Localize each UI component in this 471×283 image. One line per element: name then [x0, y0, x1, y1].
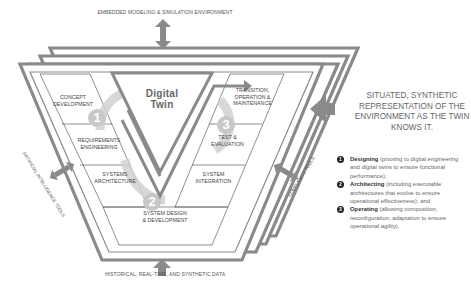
phase-line: Evaluation	[200, 141, 255, 148]
legend-title: Operating	[350, 206, 378, 212]
phase-line: Operation &	[225, 94, 280, 101]
twin-line1: Digital	[132, 88, 192, 99]
top-label: Embedded Modeling & Simulation Environme…	[80, 10, 250, 16]
twin-line2: Twin	[132, 99, 192, 110]
phase-line: Systems	[90, 171, 140, 178]
phase-line: Architecture	[90, 178, 140, 185]
phase-line: & Development	[135, 217, 195, 224]
situated-representation-text: Situated, synthetic representation of th…	[352, 91, 471, 133]
phase-line: Maintenance	[225, 100, 280, 107]
phase-requirements-engineering: Requirements Engineering	[74, 137, 124, 150]
phase-line: Integration	[186, 178, 241, 185]
phase-concept-development: Concept Development	[48, 94, 98, 107]
phase-system-integration: System Integration	[186, 171, 241, 184]
bottom-label: Historical, Real-Time, and Synthetic Dat…	[90, 272, 240, 278]
phase-line: Test &	[200, 134, 255, 141]
legend-item-designing: 1 Designing (pivoting to digital enginee…	[337, 155, 469, 180]
legend-title: Designing	[350, 156, 378, 162]
phase-line: Engineering	[74, 144, 124, 151]
phase-line: Requirements	[74, 137, 124, 144]
phase-transition-operation: Transition, Operation & Maintenance	[225, 87, 280, 107]
phase-line: Transition,	[225, 87, 280, 94]
circle-1-number: 1	[93, 110, 100, 125]
circle-2-number: 2	[148, 194, 155, 209]
phase-systems-architecture: Systems Architecture	[90, 171, 140, 184]
top-double-arrow	[155, 19, 171, 49]
phase-system-design-development: System Design & Development	[135, 210, 195, 223]
phase-line: Development	[48, 101, 98, 108]
number-badge-icon: 2	[337, 181, 344, 188]
phase-test-evaluation: Test & Evaluation	[200, 134, 255, 147]
legend-item-architecting: 2 Architecting (including executable arc…	[337, 180, 469, 205]
number-badge-icon: 3	[337, 206, 344, 213]
legend-item-operating: 3 Operating (allowing composition, recon…	[337, 205, 469, 230]
circle-3-number: 3	[222, 117, 229, 132]
phase-line: Concept	[48, 94, 98, 101]
digital-twin-title: Digital Twin	[132, 88, 192, 110]
phase-line: System	[186, 171, 241, 178]
phase-line: System Design	[135, 210, 195, 217]
legend-list: 1 Designing (pivoting to digital enginee…	[337, 155, 469, 230]
number-badge-icon: 1	[337, 156, 344, 163]
legend-title: Architecting	[350, 181, 384, 187]
